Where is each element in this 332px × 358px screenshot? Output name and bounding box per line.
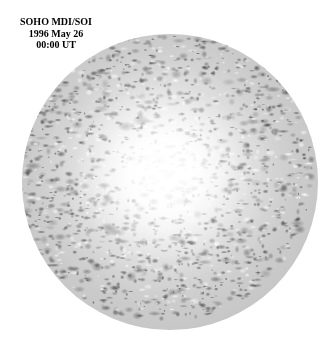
caption-instrument: SOHO MDI/SOI bbox=[14, 16, 98, 28]
caption-date: 1996 May 26 bbox=[14, 28, 98, 40]
caption-time: 00:00 UT bbox=[14, 39, 98, 51]
caption-block: SOHO MDI/SOI 1996 May 26 00:00 UT bbox=[14, 16, 98, 51]
solar-disk bbox=[22, 34, 318, 330]
solar-image-figure: SOHO MDI/SOI 1996 May 26 00:00 UT bbox=[0, 0, 332, 358]
disk-granulation-light bbox=[22, 34, 318, 330]
